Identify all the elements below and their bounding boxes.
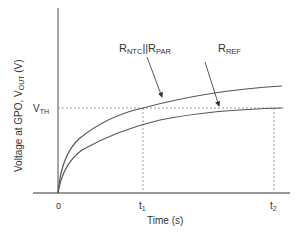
curve-rref — [58, 108, 282, 193]
label-rref: RREF — [218, 42, 241, 56]
xtick-0: 0 — [56, 201, 61, 211]
ytick-vth: VTH — [33, 103, 49, 115]
y-axis-title: Voltage at GPO, VOUT (V) — [13, 59, 25, 172]
xtick-t2: t2 — [270, 200, 277, 212]
xtick-t1: t1 — [139, 200, 146, 212]
curve-rntc-rpar — [58, 86, 282, 193]
label-rntc-rpar: RNTC||RPAR — [119, 42, 171, 56]
rc-charging-chart: RNTC||RPAR RREF VTH 0 t1 t2 Time (s) Vol… — [0, 0, 306, 238]
arrow-rntc-rpar — [147, 57, 162, 97]
arrow-rref — [205, 62, 219, 106]
x-axis-title: Time (s) — [147, 215, 183, 226]
